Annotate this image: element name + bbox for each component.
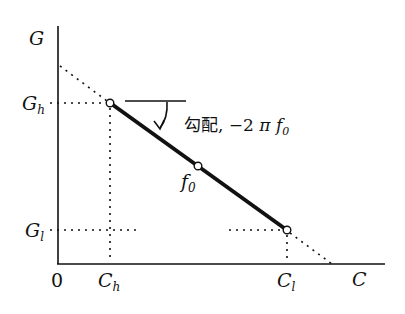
point-high-marker	[106, 99, 114, 107]
dotted-extension-upper	[60, 66, 107, 101]
cl-label: Cl	[277, 271, 295, 293]
ch-label: Ch	[98, 271, 120, 293]
point-mid-marker	[194, 162, 202, 170]
f0-label: f0	[181, 172, 196, 194]
x-axis-label: C	[352, 270, 367, 289]
slope-arc-icon	[160, 102, 167, 128]
slope-annotation: 勾配, −2 π f0	[184, 117, 289, 137]
y-axis-label: G	[29, 29, 44, 48]
diagram-canvas: G C 0 Gh Gl Ch Cl f0 勾配, −2 π f0	[0, 0, 405, 314]
origin-label: 0	[51, 271, 63, 290]
diagram-svg	[0, 0, 405, 314]
slope-arrowhead-icon	[154, 120, 164, 129]
point-low-marker	[283, 226, 291, 234]
dotted-extension-lower	[290, 233, 332, 264]
gl-label: Gl	[25, 221, 44, 243]
gh-label: Gh	[22, 94, 45, 116]
